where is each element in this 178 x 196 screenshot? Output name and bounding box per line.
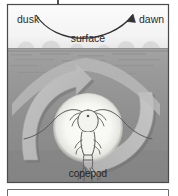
- diagram-canvas: dusk dawn surface copepod: [0, 0, 178, 196]
- label-surface: surface: [71, 32, 106, 44]
- label-dusk: dusk: [17, 13, 40, 25]
- diel-vertical-migration-figure: dusk dawn surface copepod: [0, 0, 178, 196]
- label-dawn: dawn: [139, 13, 164, 25]
- label-copepod: copepod: [69, 168, 107, 179]
